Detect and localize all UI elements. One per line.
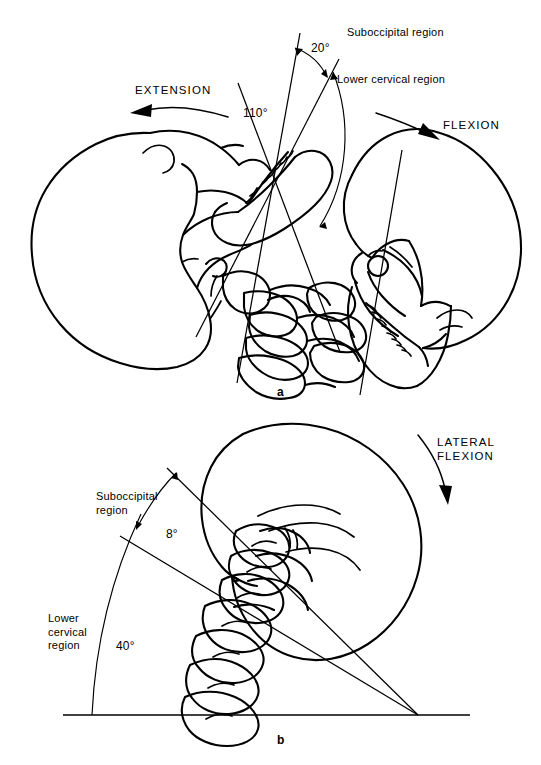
label-suboccipital-region-b: Suboccipital region: [96, 490, 158, 517]
label-lower-cervical-region-b: Lower cervical region: [48, 612, 87, 653]
suboccipital-axis-line-a: [237, 33, 300, 383]
label-extension: EXTENSION: [135, 84, 211, 97]
angle-value-20-degrees: 20°: [311, 42, 330, 55]
angle-value-8-degrees: 8°: [166, 528, 178, 541]
lateral-flexion-skull-group: [182, 424, 421, 746]
figure-letter-b: b: [277, 733, 284, 747]
lateral-flexion-arrowhead: [439, 485, 452, 505]
extension-cervical-vertebrae: [223, 272, 359, 399]
angle-value-40-degrees: 40°: [116, 640, 135, 653]
angle-value-110-degrees: 110°: [243, 107, 268, 120]
label-lower-cervical-region-a: Lower cervical region: [337, 73, 445, 86]
label-lateral-flexion: LATERAL FLEXION: [437, 436, 495, 463]
arc-8-arrowhead-bottom: [136, 521, 142, 530]
lower-cervical-axis-line-a: [196, 59, 339, 337]
label-flexion: FLEXION: [443, 119, 500, 132]
extension-arrowhead: [130, 104, 152, 117]
lower-cervical-axis-line-b: [120, 536, 418, 715]
panel-b-angle-lines: [63, 435, 470, 715]
arc-20-arrowhead-end: [321, 69, 328, 78]
figure-letter-a: a: [277, 385, 284, 399]
extension-arrow-curve: [146, 108, 228, 117]
flexion-cervical-vertebrae: [307, 283, 366, 383]
anatomical-figure: Suboccipital region Lower cervical regio…: [0, 0, 541, 765]
label-suboccipital-region-a: Suboccipital region: [347, 26, 444, 39]
lateral-cervical-vertebrae: [182, 524, 312, 746]
flexion-skull-axis-line-a: [360, 150, 402, 395]
arc-110-degrees: [320, 72, 345, 226]
